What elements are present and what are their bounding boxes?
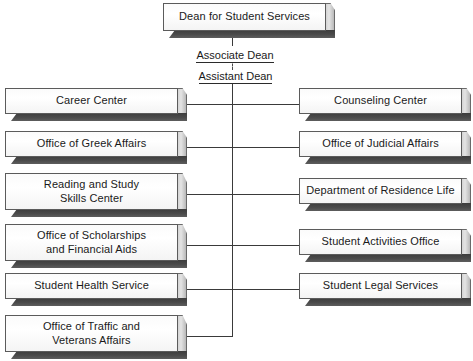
node-office-of-traffic-and-veterans-affairs[interactable]: Office of Traffic and Veterans Affairs bbox=[5, 315, 187, 359]
node-shadow-face bbox=[11, 260, 187, 268]
node-shadow-face bbox=[305, 113, 471, 121]
node-side-face bbox=[177, 315, 187, 352]
connector-row-5 bbox=[176, 289, 301, 290]
node-face: Career Center bbox=[5, 88, 178, 114]
node-shadow-face bbox=[11, 351, 187, 359]
node-side-face bbox=[177, 173, 187, 210]
label-associate-dean: Associate Dean bbox=[192, 49, 278, 63]
node-label: Student Legal Services bbox=[317, 279, 444, 292]
node-shadow-face bbox=[305, 156, 471, 164]
node-student-legal-services[interactable]: Student Legal Services bbox=[299, 273, 471, 306]
node-face: Counseling Center bbox=[299, 88, 462, 114]
node-side-face bbox=[461, 273, 471, 299]
connector-row-1 bbox=[176, 104, 301, 105]
node-shadow-face bbox=[11, 209, 187, 217]
node-face: Department of Residence Life bbox=[299, 178, 462, 204]
node-dean-for-student-services[interactable]: Dean for Student Services bbox=[163, 3, 335, 38]
node-face: Office of Scholarships and Financial Aid… bbox=[5, 224, 178, 261]
node-face: Reading and Study Skills Center bbox=[5, 173, 178, 210]
node-reading-and-study-skills-center[interactable]: Reading and Study Skills Center bbox=[5, 173, 187, 217]
node-label: Student Health Service bbox=[28, 279, 155, 292]
node-face: Student Activities Office bbox=[299, 229, 462, 255]
node-shadow-face bbox=[11, 156, 187, 164]
node-side-face bbox=[461, 229, 471, 255]
node-label: Office of Greek Affairs bbox=[31, 137, 153, 150]
node-office-of-judicial-affairs[interactable]: Office of Judicial Affairs bbox=[299, 131, 471, 164]
node-side-face bbox=[177, 88, 187, 114]
node-face: Dean for Student Services bbox=[163, 3, 326, 31]
connector-row-2 bbox=[176, 147, 301, 148]
label-assistant-dean: Assistant Dean bbox=[194, 70, 277, 84]
node-face: Student Legal Services bbox=[299, 273, 462, 299]
org-chart-canvas: Dean for Student Services Associate Dean… bbox=[0, 0, 473, 361]
node-side-face bbox=[461, 178, 471, 204]
node-shadow-face bbox=[11, 113, 187, 121]
associate-dean-text: Associate Dean bbox=[196, 49, 273, 63]
node-face: Office of Judicial Affairs bbox=[299, 131, 462, 157]
connector-row-3 bbox=[176, 194, 301, 195]
node-label: Career Center bbox=[50, 94, 133, 107]
connector-spine bbox=[232, 84, 233, 336]
node-shadow-face bbox=[305, 203, 471, 211]
node-office-of-scholarships-and-financial-aids[interactable]: Office of Scholarships and Financial Aid… bbox=[5, 224, 187, 268]
node-label: Office of Traffic and Veterans Affairs bbox=[37, 320, 146, 347]
node-label: Office of Judicial Affairs bbox=[316, 137, 445, 150]
node-shadow-face bbox=[169, 30, 335, 38]
node-face: Office of Greek Affairs bbox=[5, 131, 178, 157]
node-side-face bbox=[177, 131, 187, 157]
node-side-face bbox=[177, 224, 187, 261]
node-face: Student Health Service bbox=[5, 273, 178, 299]
node-counseling-center[interactable]: Counseling Center bbox=[299, 88, 471, 121]
node-student-health-service[interactable]: Student Health Service bbox=[5, 273, 187, 306]
node-label: Office of Scholarships and Financial Aid… bbox=[31, 229, 152, 256]
node-shadow-face bbox=[305, 254, 471, 262]
node-side-face bbox=[461, 131, 471, 157]
node-shadow-face bbox=[305, 298, 471, 306]
node-side-face bbox=[325, 3, 335, 31]
node-label: Student Activities Office bbox=[316, 235, 446, 248]
connector-row-4 bbox=[176, 245, 301, 246]
node-side-face bbox=[461, 88, 471, 114]
node-side-face bbox=[177, 273, 187, 299]
node-face: Office of Traffic and Veterans Affairs bbox=[5, 315, 178, 352]
node-label: Department of Residence Life bbox=[300, 184, 460, 197]
node-shadow-face bbox=[11, 298, 187, 306]
node-label: Counseling Center bbox=[328, 94, 433, 107]
node-label: Dean for Student Services bbox=[173, 10, 316, 23]
node-student-activities-office[interactable]: Student Activities Office bbox=[299, 229, 471, 262]
node-career-center[interactable]: Career Center bbox=[5, 88, 187, 121]
assistant-dean-text: Assistant Dean bbox=[199, 70, 273, 84]
node-office-of-greek-affairs[interactable]: Office of Greek Affairs bbox=[5, 131, 187, 164]
node-label: Reading and Study Skills Center bbox=[38, 178, 145, 205]
node-department-of-residence-life[interactable]: Department of Residence Life bbox=[299, 178, 471, 211]
